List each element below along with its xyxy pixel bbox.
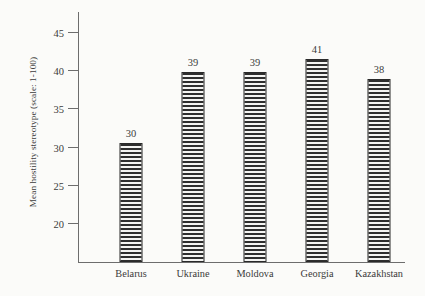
y-tick-25: 25 [68,185,78,186]
bar-chart: Mean hostility stereotype (scale: 1-100)… [0,0,425,296]
bar-group-kazakhstan: 38 [350,12,408,262]
y-tick-30: 30 [68,147,78,148]
y-tick-45: 45 [68,32,78,33]
bar-value-moldova: 39 [250,57,261,68]
y-tick-label-40: 40 [54,65,65,76]
y-tick-label-45: 45 [54,27,65,38]
x-axis-line [78,262,405,263]
bar-belarus [120,143,143,262]
bar-group-ukraine: 39 [164,12,222,262]
y-tick-20: 20 [68,223,78,224]
y-tick-label-25: 25 [54,180,65,191]
y-tick-label-20: 20 [54,218,65,229]
x-category-label-kazakhstan: Kazakhstan [339,268,419,279]
bar-group-belarus: 30 [102,12,160,262]
bar-ukraine [182,72,205,262]
bar-value-georgia: 41 [312,44,323,55]
y-axis-title: Mean hostility stereotype (scale: 1-100) [22,12,44,252]
y-tick-35: 35 [68,108,78,109]
bar-moldova [244,72,267,262]
y-tick-label-30: 30 [54,142,65,153]
y-tick-40: 40 [68,70,78,71]
bar-value-kazakhstan: 38 [374,64,385,75]
bar-georgia [306,59,329,262]
bar-group-georgia: 41 [288,12,346,262]
bar-value-ukraine: 39 [188,57,199,68]
bar-group-moldova: 39 [226,12,284,262]
y-tick-label-35: 35 [54,103,65,114]
bar-kazakhstan [368,79,391,262]
plot-area: 30 39 39 41 38 [78,12,405,262]
bar-value-belarus: 30 [126,128,137,139]
